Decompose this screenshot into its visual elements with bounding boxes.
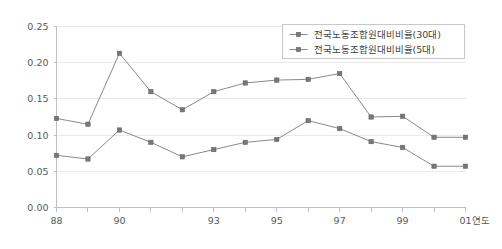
data-point-marker — [54, 153, 58, 157]
chart-canvas: 0.000.050.100.150.200.25 88909395979901 … — [0, 0, 502, 249]
x-axis-title: 연도 — [472, 215, 490, 226]
legend-marker — [296, 47, 300, 51]
legend-label: 전국노동조합원대비비율(5대) — [314, 44, 435, 55]
data-point-marker — [149, 140, 153, 144]
x-axis-tick-labels: 88909395979901 — [50, 215, 471, 226]
y-axis-tick-label: 0.15 — [27, 93, 48, 104]
series-layer — [54, 51, 467, 168]
data-point-marker — [432, 135, 436, 139]
line-chart: 0.000.050.100.150.200.25 88909395979901 … — [0, 0, 502, 249]
data-point-marker — [149, 89, 153, 93]
y-axis-tick-label: 0.05 — [27, 166, 48, 177]
chart-legend: 전국노동조합원대비비율(30대)전국노동조합원대비비율(5대) — [283, 25, 465, 59]
data-point-marker — [400, 114, 404, 118]
data-point-marker — [180, 155, 184, 159]
x-axis-tick-label: 90 — [113, 215, 125, 226]
series-line — [57, 53, 466, 137]
data-point-marker — [306, 118, 310, 122]
data-point-marker — [463, 164, 467, 168]
data-point-marker — [275, 78, 279, 82]
x-axis-tick-label: 99 — [397, 215, 409, 226]
x-axis-tick-label: 01 — [459, 215, 471, 226]
data-point-marker — [243, 81, 247, 85]
y-axis-tick-label: 0.10 — [27, 130, 48, 141]
y-axis-tick-label: 0.20 — [27, 57, 48, 68]
legend-label: 전국노동조합원대비비율(30대) — [314, 29, 442, 40]
data-point-marker — [337, 71, 341, 75]
data-point-marker — [86, 157, 90, 161]
data-point-marker — [463, 135, 467, 139]
data-point-marker — [117, 128, 121, 132]
data-point-marker — [337, 126, 341, 130]
data-point-marker — [86, 122, 90, 126]
data-point-marker — [117, 51, 121, 55]
series-2 — [54, 118, 467, 168]
data-point-marker — [275, 137, 279, 141]
data-point-marker — [306, 77, 310, 81]
data-point-marker — [212, 89, 216, 93]
data-point-marker — [54, 116, 58, 120]
x-tick-marks — [57, 208, 466, 212]
legend-marker — [296, 32, 300, 36]
data-point-marker — [212, 147, 216, 151]
series-line — [57, 121, 466, 167]
x-axis-tick-label: 93 — [208, 215, 220, 226]
y-axis-tick-label: 0.00 — [27, 202, 48, 213]
x-axis-tick-label: 88 — [50, 215, 62, 226]
series-1 — [54, 51, 467, 139]
y-axis-tick-labels: 0.000.050.100.150.200.25 — [27, 21, 48, 213]
data-point-marker — [432, 164, 436, 168]
data-point-marker — [400, 145, 404, 149]
data-point-marker — [369, 115, 373, 119]
data-point-marker — [369, 139, 373, 143]
data-point-marker — [243, 140, 247, 144]
data-point-marker — [180, 108, 184, 112]
y-axis-tick-label: 0.25 — [27, 21, 48, 32]
x-axis-tick-label: 95 — [271, 215, 283, 226]
x-axis-tick-label: 97 — [334, 215, 346, 226]
